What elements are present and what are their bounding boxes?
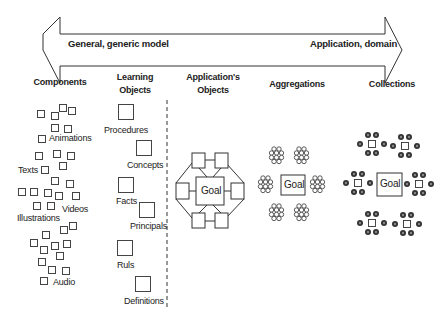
collections-graph [0, 0, 448, 320]
diagram-root: General, generic model Application, doma… [0, 0, 448, 320]
collections-goal-label: Goal [380, 179, 400, 189]
